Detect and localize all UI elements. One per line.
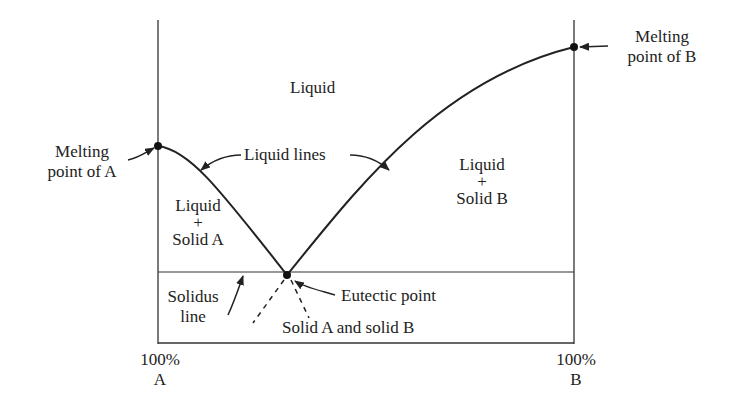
region-solid-a-b-label: Solid A and solid B [282,318,414,338]
melting-point-b-dot [570,43,578,51]
label-line: Melting [32,142,132,162]
axis-label-b: 100% B [554,350,598,390]
label-line: Melting [612,27,712,47]
eutectic-point-label: Eutectic point [341,286,436,306]
eutectic-point-dot [283,271,291,279]
label-line: Solidus [163,287,223,307]
label-line: A [138,370,182,390]
axis-label-a: 100% A [138,350,182,390]
melting-point-b-label: Melting point of B [612,27,712,67]
label-line: line [163,307,223,327]
dashed-extension-a [253,280,284,323]
region-liquid-label: Liquid [290,78,335,98]
arrow-solidus [228,276,243,315]
arrow-melting-b [580,46,608,47]
region-line: Solid B [447,189,517,209]
label-line: 100% [138,350,182,370]
melting-point-a-dot [154,142,162,150]
region-liquid-solid-b-label: Liquid + Solid B [447,155,517,209]
label-line: B [554,370,598,390]
liquid-lines-label: Liquid lines [244,145,326,165]
region-line: + [447,175,517,189]
label-line: point of B [612,47,712,67]
melting-point-a-label: Melting point of A [32,142,132,182]
label-line: point of A [32,162,132,182]
region-line: + [163,216,233,230]
solidus-line-label: Solidus line [163,287,223,327]
region-liquid-solid-a-label: Liquid + Solid A [163,196,233,250]
arrow-liquid-line-left [201,155,241,170]
region-line: Solid A [163,230,233,250]
arrow-eutectic [295,281,335,295]
label-line: 100% [554,350,598,370]
